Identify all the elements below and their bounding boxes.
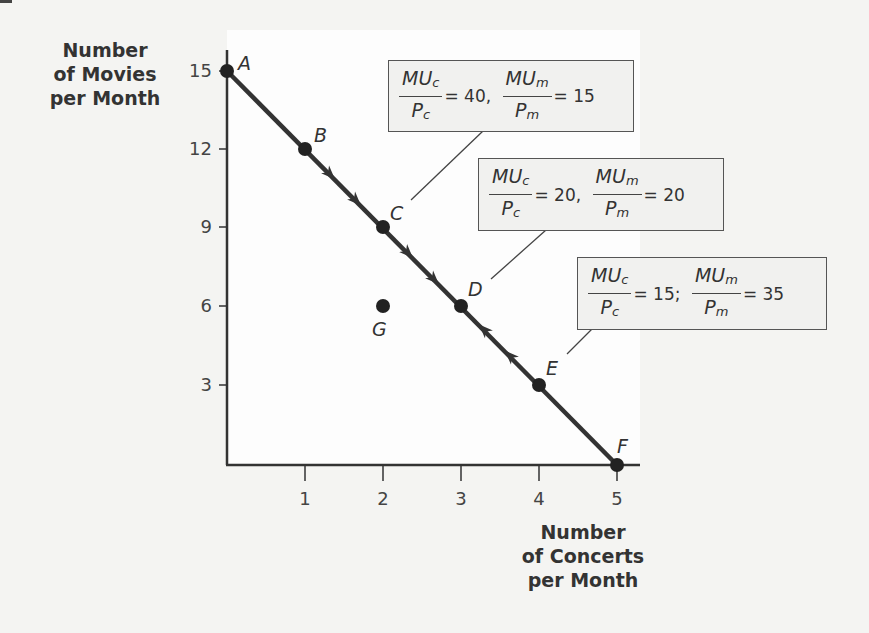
denominator: P: [501, 197, 512, 219]
point-label-a: A: [238, 52, 251, 74]
fraction-mu-m: MUm Pm: [593, 164, 642, 225]
annotation-box-c: MUc Pc = 40, MUm Pm = 15: [388, 60, 634, 132]
subscript: c: [513, 205, 520, 220]
point-g: [376, 299, 390, 313]
point-b: [298, 142, 312, 156]
denominator: P: [605, 197, 616, 219]
point-label-b: B: [314, 124, 327, 146]
subscript: c: [612, 304, 619, 319]
fraction-mu-c: MUc Pc: [489, 164, 532, 225]
x-tick-label: 1: [290, 488, 320, 509]
numerator: MU: [695, 264, 725, 286]
numerator: MU: [596, 165, 626, 187]
point-a: [220, 64, 234, 78]
equals-value: = 15;: [633, 284, 685, 304]
numerator: MU: [506, 67, 536, 89]
numerator: MU: [591, 264, 621, 286]
x-tick-label: 2: [368, 488, 398, 509]
point-f: [610, 458, 624, 472]
y-axis-title: Number of Movies per Month: [30, 38, 180, 110]
point-label-f: F: [617, 435, 628, 457]
numerator: MU: [402, 67, 432, 89]
x-axis-title-line: of Concerts: [513, 544, 653, 568]
y-axis-title-line: of Movies: [30, 62, 180, 86]
subscript: c: [423, 107, 430, 122]
fraction-mu-c: MUc Pc: [588, 263, 631, 324]
y-tick-label: 9: [172, 216, 212, 237]
y-tick-label: 15: [172, 60, 212, 81]
x-tick-label: 5: [602, 488, 632, 509]
point-e: [532, 378, 546, 392]
point-label-e: E: [546, 357, 558, 379]
equals-value: = 20,: [534, 185, 586, 205]
denominator: P: [704, 296, 715, 318]
equals-value: = 40,: [444, 86, 496, 106]
subscript: c: [621, 272, 628, 287]
subscript: m: [716, 304, 729, 319]
annotation-box-d: MUc Pc = 20, MUm Pm = 20: [478, 158, 724, 231]
annotation-box-e: MUc Pc = 15; MUm Pm = 35: [577, 257, 827, 330]
point-label-g: G: [372, 318, 387, 340]
point-d: [454, 299, 468, 313]
denominator: P: [411, 99, 422, 121]
point-label-d: D: [468, 278, 483, 300]
x-tick-label: 4: [524, 488, 554, 509]
x-axis-title-line: per Month: [513, 568, 653, 592]
y-axis-title-line: Number: [30, 38, 180, 62]
x-ticks: [305, 465, 617, 481]
x-axis-title-line: Number: [513, 520, 653, 544]
fraction-mu-c: MUc Pc: [399, 66, 442, 127]
numerator: MU: [492, 165, 522, 187]
subscript: m: [526, 107, 539, 122]
y-tick-label: 12: [172, 138, 212, 159]
subscript: m: [616, 205, 629, 220]
y-tick-label: 6: [172, 295, 212, 316]
equals-value: = 15: [554, 86, 595, 106]
x-axis-title: Number of Concerts per Month: [513, 520, 653, 592]
subscript: m: [725, 272, 738, 287]
equals-value: = 35: [743, 284, 784, 304]
fraction-mu-m: MUm Pm: [692, 263, 741, 324]
y-axis-title-line: per Month: [30, 86, 180, 110]
point-c: [376, 220, 390, 234]
subscript: m: [536, 75, 549, 90]
point-label-c: C: [390, 202, 403, 224]
x-tick-label: 3: [446, 488, 476, 509]
y-tick-label: 3: [172, 374, 212, 395]
equals-value: = 20: [644, 185, 685, 205]
subscript: c: [432, 75, 439, 90]
denominator: P: [515, 99, 526, 121]
subscript: m: [626, 173, 639, 188]
denominator: P: [600, 296, 611, 318]
subscript: c: [522, 173, 529, 188]
fraction-mu-m: MUm Pm: [503, 66, 552, 127]
